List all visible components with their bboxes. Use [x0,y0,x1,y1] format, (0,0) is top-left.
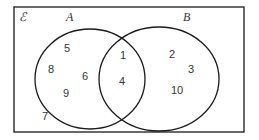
set-a-label: A [65,10,74,24]
b-element: 3 [188,63,194,75]
a-element: 5 [64,42,70,54]
intersection-element: 4 [119,75,125,87]
b-element: 10 [171,84,183,96]
set-a-circle [35,29,145,129]
intersection-element: 1 [120,49,126,61]
venn-diagram: ℰ A B 5 8 6 9 1 4 2 3 10 7 [0,0,259,140]
a-element: 9 [63,87,69,99]
b-element: 2 [169,48,175,60]
set-b-circle [99,27,219,131]
universal-label: ℰ [19,10,28,24]
a-element: 6 [82,70,88,82]
outside-element: 7 [42,110,48,122]
set-b-label: B [183,10,191,24]
a-element: 8 [48,63,54,75]
